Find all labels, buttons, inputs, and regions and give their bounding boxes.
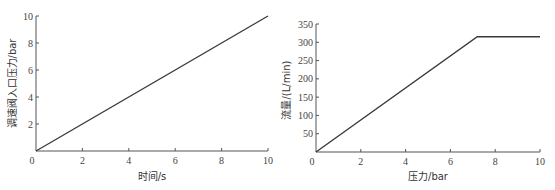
y-tick-label: 250 bbox=[298, 55, 313, 66]
x-tick-label: 4 bbox=[126, 155, 131, 166]
x-tick-label: 8 bbox=[493, 156, 498, 167]
x-tick-label: 2 bbox=[358, 156, 363, 167]
y-tick-label: 100 bbox=[298, 110, 313, 121]
y-tick-label: 2 bbox=[28, 119, 33, 130]
x-tick-label: 2 bbox=[80, 155, 85, 166]
y-axis-label: 调速阀入口压力/bar bbox=[6, 38, 18, 129]
y-tick-label: 10 bbox=[23, 11, 33, 22]
right-chart: 024681050100150200250300350压力/bar流量/(L/m… bbox=[280, 19, 545, 183]
y-tick-label: 50 bbox=[303, 128, 313, 139]
charts-canvas: 0246810246810时间/s调速阀入口压力/bar024681050100… bbox=[0, 0, 555, 190]
data-line bbox=[36, 16, 268, 151]
left-chart: 0246810246810时间/s调速阀入口压力/bar bbox=[6, 11, 273, 183]
x-tick-label: 10 bbox=[263, 155, 273, 166]
y-axis-label: 流量/(L/min) bbox=[280, 60, 292, 119]
y-tick-label: 150 bbox=[298, 92, 313, 103]
x-tick-label: 4 bbox=[403, 156, 408, 167]
y-tick-label: 6 bbox=[28, 65, 33, 76]
x-tick-label: 8 bbox=[219, 155, 224, 166]
x-tick-label: 0 bbox=[310, 156, 315, 167]
y-tick-label: 200 bbox=[298, 73, 313, 84]
x-tick-label: 10 bbox=[535, 156, 545, 167]
x-tick-label: 6 bbox=[448, 156, 453, 167]
y-tick-label: 300 bbox=[298, 37, 313, 48]
x-tick-label: 0 bbox=[30, 155, 35, 166]
y-tick-label: 350 bbox=[298, 19, 313, 30]
x-axis-label: 时间/s bbox=[138, 170, 167, 182]
x-axis-label: 压力/bar bbox=[408, 170, 449, 182]
y-tick-label: 4 bbox=[28, 92, 33, 103]
data-line bbox=[316, 37, 540, 152]
y-tick-label: 8 bbox=[28, 38, 33, 49]
x-tick-label: 6 bbox=[173, 155, 178, 166]
